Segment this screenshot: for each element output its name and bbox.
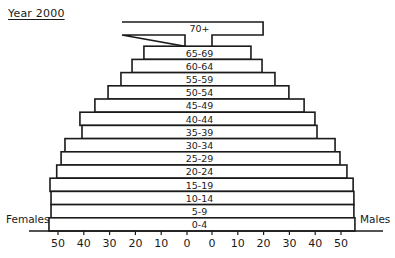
x-tick-label: 30 xyxy=(282,237,296,250)
age-group-label: 15-19 xyxy=(186,180,214,191)
x-tick-label: 0 xyxy=(209,237,216,250)
x-tick-label: 40 xyxy=(308,237,322,250)
age-group-label: 35-39 xyxy=(186,127,214,138)
age-group-label: 55-59 xyxy=(186,74,214,85)
bar-15-19: 15-19 xyxy=(50,178,353,191)
bar-30-34: 30-34 xyxy=(65,139,335,152)
bar-5-9: 5-9 xyxy=(51,205,354,218)
x-tick-label: 10 xyxy=(231,237,245,250)
age-group-label: 50-54 xyxy=(186,87,214,98)
bar-70+: 70+ xyxy=(122,22,263,46)
bar-35-39: 35-39 xyxy=(82,125,317,138)
age-group-label: 25-29 xyxy=(186,153,214,164)
age-group-label: 45-49 xyxy=(186,100,214,111)
age-group-label: 20-24 xyxy=(186,166,214,177)
x-tick-label: 20 xyxy=(257,237,271,250)
population-pyramid-chart: 70+65-6960-6455-5950-5445-4940-4435-3930… xyxy=(0,0,395,258)
x-tick-label: 50 xyxy=(334,237,348,250)
x-tick-label: 10 xyxy=(154,237,168,250)
bars-group: 70+65-6960-6455-5950-5445-4940-4435-3930… xyxy=(49,22,355,231)
age-group-label: 0-4 xyxy=(192,219,208,230)
bar-45-49: 45-49 xyxy=(95,99,304,112)
bar-20-24: 20-24 xyxy=(57,165,347,178)
x-tick-label: 50 xyxy=(51,237,65,250)
bar-60-64: 60-64 xyxy=(132,59,262,72)
age-group-label: 70+ xyxy=(189,23,209,34)
x-tick-label: 20 xyxy=(128,237,142,250)
age-group-label: 40-44 xyxy=(186,114,214,125)
age-group-label: 60-64 xyxy=(186,61,214,72)
x-tick-label: 30 xyxy=(103,237,117,250)
age-group-label: 10-14 xyxy=(186,193,214,204)
bar-10-14: 10-14 xyxy=(51,191,354,204)
bar-25-29: 25-29 xyxy=(61,152,340,165)
x-axis: 5040302010001020304050 xyxy=(29,231,383,250)
bar-0-4: 0-4 xyxy=(49,218,355,231)
bar-55-59: 55-59 xyxy=(121,73,275,86)
x-tick-label: 40 xyxy=(77,237,91,250)
age-group-label: 30-34 xyxy=(186,140,214,151)
x-tick-label: 0 xyxy=(184,237,191,250)
age-group-label: 65-69 xyxy=(186,48,214,59)
age-group-label: 5-9 xyxy=(192,206,208,217)
bar-40-44: 40-44 xyxy=(80,112,315,125)
bar-65-69: 65-69 xyxy=(144,46,251,59)
bar-50-54: 50-54 xyxy=(108,86,289,99)
